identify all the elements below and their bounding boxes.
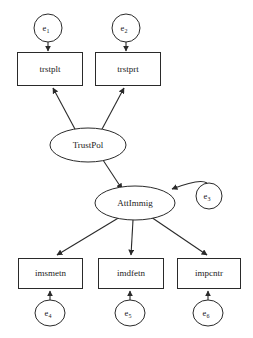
edge-attimmig-to-imsmetn bbox=[57, 217, 120, 255]
node-attimmig-label: AttImmig bbox=[117, 198, 153, 208]
node-attimmig[interactable]: AttImmig bbox=[95, 186, 175, 220]
node-trstprt-label: trstprt bbox=[117, 64, 139, 74]
node-e2[interactable]: e2 bbox=[112, 14, 140, 42]
node-imdfetn[interactable]: imdfetn bbox=[99, 259, 164, 289]
node-e4[interactable]: e4 bbox=[35, 300, 65, 326]
node-trstplt[interactable]: trstplt bbox=[18, 53, 83, 86]
node-e1[interactable]: e1 bbox=[34, 14, 62, 42]
node-imsmetn[interactable]: imsmetn bbox=[19, 259, 83, 289]
node-trustpol[interactable]: TrustPol bbox=[50, 128, 126, 162]
node-e6[interactable]: e6 bbox=[193, 300, 223, 326]
observed-variable-layer: trstplt trstprt imsmetn imdfetn impcntr bbox=[18, 53, 241, 289]
node-impcntr-label: impcntr bbox=[195, 268, 223, 278]
edge-attimmig-to-imdfetn bbox=[131, 220, 133, 255]
edge-trustpol-to-trstprt bbox=[101, 88, 124, 131]
sem-path-diagram: trstplt trstprt imsmetn imdfetn impcntr bbox=[0, 0, 253, 338]
node-trustpol-label: TrustPol bbox=[73, 140, 104, 150]
node-imdfetn-label: imdfetn bbox=[117, 268, 145, 278]
node-e3[interactable]: e3 bbox=[196, 183, 222, 209]
node-e5[interactable]: e5 bbox=[115, 300, 145, 326]
node-impcntr[interactable]: impcntr bbox=[178, 259, 241, 289]
edge-attimmig-to-impcntr bbox=[151, 217, 207, 255]
node-imsmetn-label: imsmetn bbox=[35, 268, 66, 278]
node-trstprt[interactable]: trstprt bbox=[96, 53, 161, 86]
edge-trustpol-to-attimmig bbox=[101, 157, 122, 189]
node-trstplt-label: trstplt bbox=[39, 64, 61, 74]
diagram-canvas: trstplt trstprt imsmetn imdfetn impcntr bbox=[0, 0, 253, 338]
edge-trustpol-to-trstplt bbox=[53, 88, 76, 131]
